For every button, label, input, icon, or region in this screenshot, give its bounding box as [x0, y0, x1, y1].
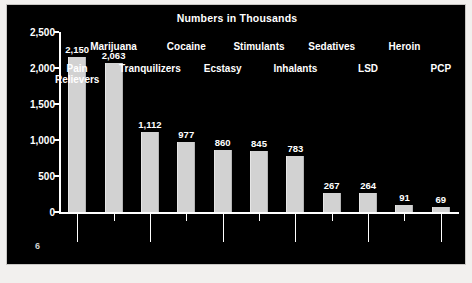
bar-value-label: 264 — [360, 180, 376, 191]
y-axis-tick-label: 0 — [49, 207, 55, 218]
category-tick-separator — [223, 212, 224, 242]
bar-value-label: 2,150 — [65, 44, 89, 55]
category-tick-separator — [404, 212, 405, 221]
bar-value-label: 91 — [399, 192, 410, 203]
x-axis-category-label: LSD — [358, 63, 378, 74]
y-axis-tick-label: 1,500 — [30, 99, 55, 110]
bar — [105, 63, 123, 212]
bar — [214, 150, 232, 212]
category-tick-separator — [441, 212, 442, 242]
category-tick-separator — [368, 212, 369, 242]
category-tick-separator — [332, 212, 333, 221]
y-axis-line — [59, 32, 61, 212]
bar — [177, 142, 195, 212]
chart-figure: Numbers in Thousands 05001,0001,5002,000… — [6, 4, 466, 265]
bar-value-label: 69 — [436, 194, 447, 205]
bar-value-label: 267 — [324, 180, 340, 191]
bar-value-label: 845 — [251, 138, 267, 149]
category-tick-separator — [77, 212, 78, 242]
x-axis-category-label: Tranquilizers — [119, 63, 181, 74]
category-tick-separator — [295, 212, 296, 242]
bar-value-label: 2,063 — [102, 50, 126, 61]
plot-axes-area: 05001,0001,5002,0002,500 2,1502,0631,112… — [59, 32, 459, 212]
bar-value-label: 783 — [287, 143, 303, 154]
bar-value-label: 1,112 — [138, 119, 161, 130]
bar — [286, 156, 304, 212]
category-tick-separator — [186, 212, 187, 221]
bar-value-label: 977 — [178, 129, 194, 140]
bar — [359, 193, 377, 212]
bar — [323, 193, 341, 212]
y-axis-tick-label: 500 — [38, 171, 55, 182]
x-axis-category-label: PainRelievers — [55, 63, 99, 85]
category-tick-separator — [150, 212, 151, 242]
x-axis-category-label: Marijuana — [90, 41, 137, 52]
x-axis-category-label: Stimulants — [233, 41, 284, 52]
x-axis-category-label: Heroin — [389, 41, 421, 52]
x-axis-category-label: Cocaine — [167, 41, 206, 52]
y-axis-tick-label: 1,000 — [30, 135, 55, 146]
category-tick-separator — [259, 212, 260, 221]
bar-chart-plot: 05001,0001,5002,0002,500 2,1502,0631,112… — [59, 32, 459, 212]
category-tick-separator — [114, 212, 115, 221]
y-axis-tick-label: 2,000 — [30, 63, 55, 74]
bar — [141, 132, 159, 212]
bar-value-label: 860 — [215, 137, 231, 148]
chart-title: Numbers in Thousands — [7, 12, 467, 24]
bar — [250, 151, 268, 212]
x-axis-category-label: Ecstasy — [204, 63, 242, 74]
x-axis-category-label: PCP — [431, 63, 452, 74]
x-axis-category-label: Sedatives — [308, 41, 355, 52]
page-number: 6 — [35, 241, 40, 251]
x-axis-category-label: Inhalants — [273, 63, 317, 74]
y-axis-tick-label: 2,500 — [30, 27, 55, 38]
